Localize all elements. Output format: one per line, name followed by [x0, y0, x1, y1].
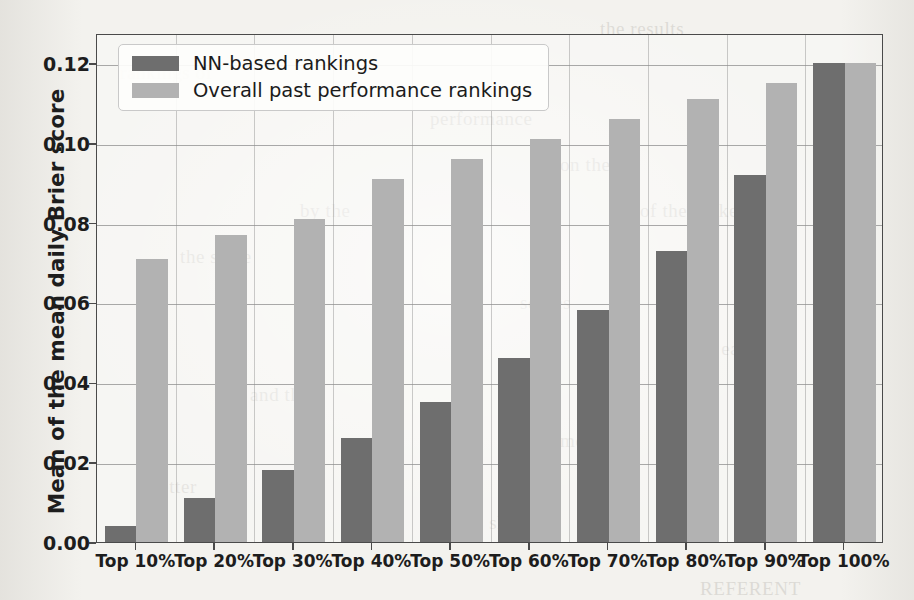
y-axis-tick [89, 223, 96, 225]
y-axis-tick [89, 462, 96, 464]
gridline-vertical [569, 35, 570, 542]
gridline-vertical [648, 35, 649, 542]
x-axis-tick [371, 543, 373, 550]
x-axis-tick [764, 543, 766, 550]
x-axis-tick [213, 543, 215, 550]
y-axis-tick [89, 63, 96, 65]
gridline-vertical [176, 35, 177, 542]
y-axis-tick-label: 0.08 [0, 213, 90, 235]
bar [341, 438, 372, 542]
bar [184, 498, 215, 542]
gridline-vertical [333, 35, 334, 542]
x-axis-tick-label: Top 100% [769, 551, 914, 571]
x-axis-tick [135, 543, 137, 550]
bar [734, 175, 765, 542]
bar [262, 470, 293, 542]
x-axis-tick [528, 543, 530, 550]
y-axis-tick [89, 303, 96, 305]
gridline-vertical [254, 35, 255, 542]
bar [766, 83, 797, 542]
y-axis-tick-label: 0.04 [0, 372, 90, 394]
bar-chart-figure: Mean of the mean daily Brier score 0.000… [0, 0, 914, 600]
x-axis-tick [449, 543, 451, 550]
bar [577, 310, 608, 542]
legend-label: Overall past performance rankings [193, 79, 532, 102]
x-axis-tick [685, 543, 687, 550]
y-axis-tick [89, 542, 96, 544]
bar [609, 119, 640, 542]
x-axis-tick [607, 543, 609, 550]
bar [813, 63, 844, 542]
bar [136, 259, 167, 542]
x-axis-tick [292, 543, 294, 550]
bar [372, 179, 403, 542]
gridline-vertical [727, 35, 728, 542]
y-axis-tick-label: 0.10 [0, 133, 90, 155]
bar [294, 219, 325, 542]
legend-entry: NN-based rankings [132, 52, 532, 75]
legend-label: NN-based rankings [193, 52, 378, 75]
bar [656, 251, 687, 542]
gridline-horizontal [97, 145, 882, 146]
dark-grey-swatch [132, 56, 179, 71]
legend-entry: Overall past performance rankings [132, 79, 532, 102]
bar [687, 99, 718, 542]
x-axis-tick [843, 543, 845, 550]
y-axis-tick [89, 383, 96, 385]
bar [420, 402, 451, 542]
bar [215, 235, 246, 542]
y-axis-tick-label: 0.12 [0, 53, 90, 75]
bar [451, 159, 482, 542]
gridline-vertical [491, 35, 492, 542]
y-axis-tick-label: 0.06 [0, 292, 90, 314]
y-axis-tick-label: 0.02 [0, 452, 90, 474]
y-axis-tick [89, 143, 96, 145]
bar [498, 358, 529, 542]
bar [845, 63, 876, 542]
bar [530, 139, 561, 542]
gridline-vertical [412, 35, 413, 542]
chart-legend: NN-based rankingsOverall past performanc… [118, 44, 549, 111]
gridline-vertical [805, 35, 806, 542]
bar [105, 526, 136, 542]
light-grey-swatch [132, 83, 179, 98]
